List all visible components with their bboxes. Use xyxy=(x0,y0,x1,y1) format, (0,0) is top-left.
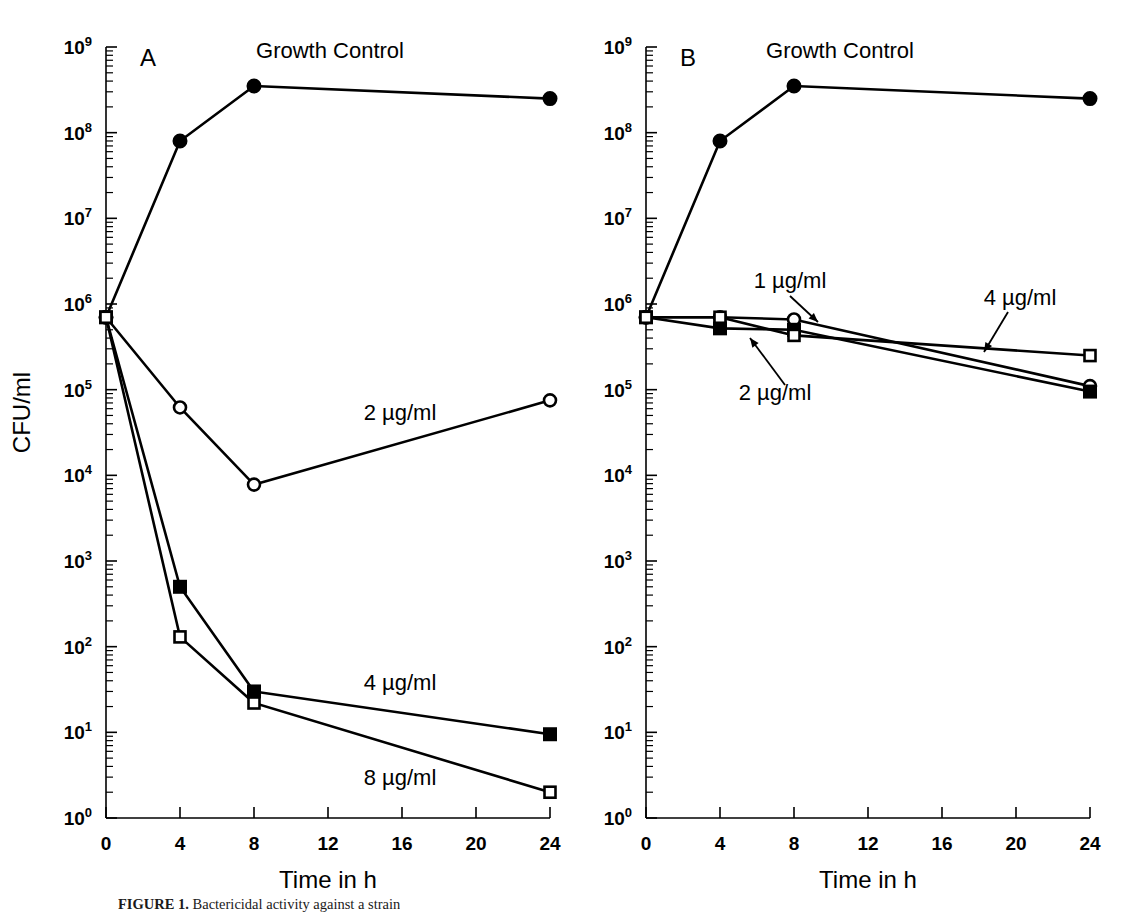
y-tick-label: 102 xyxy=(604,634,632,658)
x-tick-label: 20 xyxy=(1005,833,1026,854)
y-tick-exponent: 2 xyxy=(625,634,632,649)
y-tick-label: 101 xyxy=(604,719,632,743)
growth-control-label: Growth Control xyxy=(766,38,914,63)
y-tick-exponent: 0 xyxy=(625,805,632,820)
y-tick-label: 104 xyxy=(64,462,93,486)
y-tick-exponent: 5 xyxy=(85,377,92,392)
caption-body: Bactericidal activity against a strain xyxy=(193,896,401,912)
data-point-open-circle xyxy=(174,401,186,413)
y-tick-label: 105 xyxy=(604,377,632,401)
series-line-3 xyxy=(106,317,550,792)
series-line-0 xyxy=(646,86,1090,317)
y-tick-exponent: 5 xyxy=(625,377,632,392)
x-tick-label: 8 xyxy=(249,833,260,854)
y-tick-label: 106 xyxy=(604,291,632,315)
y-tick-exponent: 4 xyxy=(85,462,93,477)
panel-a: 1001011021031041051061071081090481216202… xyxy=(8,34,561,893)
data-point-filled-circle xyxy=(788,80,801,93)
series-line-2 xyxy=(646,317,1090,391)
y-tick-label: 108 xyxy=(604,120,632,144)
x-tick-label: 16 xyxy=(931,833,952,854)
y-tick-label: 107 xyxy=(64,205,92,229)
x-tick-label: 12 xyxy=(317,833,338,854)
x-tick-label: 0 xyxy=(101,833,112,854)
y-tick-label: 107 xyxy=(604,205,632,229)
panel-letter-b: B xyxy=(680,44,696,71)
y-tick-label: 104 xyxy=(604,462,633,486)
conc-1-label: 1 µg/ml xyxy=(754,268,827,293)
y-tick-exponent: 9 xyxy=(625,34,632,49)
y-tick-label: 106 xyxy=(64,291,92,315)
series-line-0 xyxy=(106,86,550,317)
y-tick-exponent: 7 xyxy=(85,205,92,220)
y-tick-exponent: 9 xyxy=(85,34,92,49)
conc-2-label-arrowhead xyxy=(750,338,759,348)
data-point-filled-square xyxy=(1084,386,1096,398)
data-point-filled-square xyxy=(174,581,186,593)
y-tick-exponent: 0 xyxy=(85,805,92,820)
y-tick-exponent: 2 xyxy=(85,634,92,649)
x-tick-label: 12 xyxy=(857,833,878,854)
x-axis-title: Time in h xyxy=(279,866,377,893)
y-tick-label: 101 xyxy=(64,719,92,743)
figure-container: 1001011021031041051061071081090481216202… xyxy=(0,0,1130,913)
y-tick-exponent: 3 xyxy=(85,548,92,563)
data-point-open-square xyxy=(101,312,112,323)
conc-2-label: 2 µg/ml xyxy=(364,400,437,425)
figure-svg: 1001011021031041051061071081090481216202… xyxy=(0,0,1130,913)
data-point-filled-square xyxy=(544,728,556,740)
y-tick-label: 103 xyxy=(604,548,632,572)
x-tick-label: 20 xyxy=(465,833,486,854)
x-tick-label: 0 xyxy=(641,833,652,854)
y-tick-label: 109 xyxy=(604,34,632,58)
data-point-open-square xyxy=(175,631,186,642)
data-point-filled-circle xyxy=(174,134,187,147)
y-tick-exponent: 7 xyxy=(625,205,632,220)
data-point-open-square xyxy=(789,330,800,341)
data-point-filled-square xyxy=(714,322,726,334)
y-tick-label: 100 xyxy=(64,805,92,829)
x-tick-label: 4 xyxy=(715,833,726,854)
x-tick-label: 24 xyxy=(539,833,561,854)
y-tick-exponent: 1 xyxy=(625,719,632,734)
panel-letter-a: A xyxy=(140,44,156,71)
data-point-filled-circle xyxy=(544,92,557,105)
y-axis-title: CFU/ml xyxy=(8,372,35,453)
y-tick-exponent: 1 xyxy=(85,719,92,734)
y-tick-label: 109 xyxy=(64,34,92,58)
growth-control-label: Growth Control xyxy=(256,38,404,63)
x-axis-title: Time in h xyxy=(819,866,917,893)
data-point-open-square xyxy=(1085,350,1096,361)
y-tick-label: 105 xyxy=(64,377,92,401)
panel-b: 1001011021031041051061071081090481216202… xyxy=(604,34,1101,893)
data-point-open-square xyxy=(641,312,652,323)
y-tick-exponent: 8 xyxy=(85,120,92,135)
series-line-1 xyxy=(106,317,550,484)
y-tick-exponent: 3 xyxy=(625,548,632,563)
x-tick-label: 4 xyxy=(175,833,186,854)
y-tick-exponent: 4 xyxy=(625,462,633,477)
y-tick-label: 108 xyxy=(64,120,92,144)
x-tick-label: 16 xyxy=(391,833,412,854)
figure-caption: FIGURE 1. Bactericidal activity against … xyxy=(118,896,400,913)
y-tick-exponent: 6 xyxy=(625,291,632,306)
y-tick-label: 100 xyxy=(604,805,632,829)
data-point-open-square xyxy=(249,697,260,708)
conc-2-label: 2 µg/ml xyxy=(739,380,812,405)
data-point-open-square xyxy=(715,312,726,323)
conc-8-label: 8 µg/ml xyxy=(364,765,437,790)
x-tick-label: 8 xyxy=(789,833,800,854)
data-point-open-square xyxy=(545,787,556,798)
data-point-open-circle xyxy=(248,479,260,491)
data-point-filled-circle xyxy=(1084,92,1097,105)
data-point-open-circle xyxy=(544,394,556,406)
data-point-filled-circle xyxy=(714,134,727,147)
y-tick-exponent: 8 xyxy=(625,120,632,135)
caption-label: FIGURE 1. xyxy=(118,896,189,912)
conc-4-label: 4 µg/ml xyxy=(984,285,1057,310)
series-line-2 xyxy=(106,317,550,734)
y-tick-label: 103 xyxy=(64,548,92,572)
data-point-filled-circle xyxy=(248,80,261,93)
conc-4-label: 4 µg/ml xyxy=(364,670,437,695)
y-tick-label: 102 xyxy=(64,634,92,658)
